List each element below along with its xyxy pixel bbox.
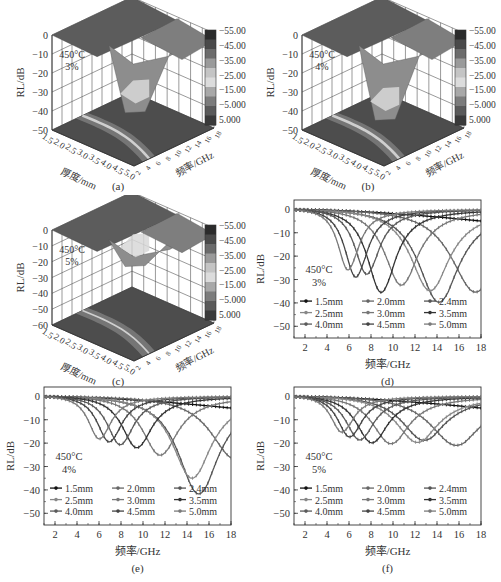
z-tick-label: −10 [32, 241, 48, 252]
x-tick-label: 2 [302, 342, 307, 353]
z-tick-label: −40 [282, 106, 298, 117]
z-tick-label: −50 [32, 304, 48, 315]
y-tick-label: −10 [274, 228, 290, 239]
y-tick-label: −30 [24, 462, 40, 473]
surface-3d-box: 0−10−20−30−40−50−60RL/dB450°C5%1.52.02.5… [14, 195, 224, 387]
legend-item: 2.4mm [439, 296, 467, 307]
x-tick-label: 18 [226, 529, 237, 540]
y-tick-label: 0 [285, 391, 290, 402]
panel-f-line: 0−10−20−30−40−5024681012141618频率/GHzRL/d… [250, 382, 501, 582]
x-tick-label: 8 [118, 529, 123, 540]
y-axis-label: RL/dB [4, 441, 16, 471]
surface-3d-box: 0−10−20−30−40−50RL/dB450°C3%1.52.02.53.0… [14, 0, 224, 192]
colorbar: −55.00−45.00−35.00−25.00−15.00−5.0005.00… [205, 221, 246, 321]
panel-caption: (b) [362, 180, 375, 193]
z-tick-label: 0 [293, 30, 298, 41]
annotation-content: 3% [312, 277, 326, 288]
legend-item: 4.0mm [315, 506, 343, 517]
colorbar-label: −35.00 [219, 56, 246, 66]
x-axis-label: 频率/GHz [365, 544, 411, 557]
legend-item: 2.4mm [189, 483, 217, 494]
legend: 1.5mm2.0mm2.4mm2.5mm3.0mm3.5mm4.0mm4.5mm… [300, 483, 467, 517]
colorbar-label: −55.00 [469, 26, 496, 36]
colorbar-label: −15.00 [219, 85, 246, 95]
y-tick-label: −30 [274, 462, 290, 473]
x-tick-label: 16 [454, 342, 465, 353]
legend-item: 3.5mm [439, 495, 467, 506]
colorbar-label: 5.000 [469, 115, 491, 125]
z-axis-label: RL/dB [264, 68, 276, 98]
legend-item: 3.5mm [439, 308, 467, 319]
x-tick-label: 10 [388, 529, 399, 540]
x-tick-label: 12 [160, 529, 171, 540]
y-tick-label: 8 [164, 350, 173, 357]
z-axis-label: RL/dB [14, 68, 26, 98]
y-tick-label: 18 [463, 130, 474, 140]
y-axis-label: RL/dB [254, 254, 266, 284]
z-tick-label: −40 [32, 106, 48, 117]
legend-item: 3.0mm [127, 495, 155, 506]
legend-item: 4.0mm [65, 506, 93, 517]
y-tick-label: −50 [24, 508, 40, 519]
z-tick-label: −30 [282, 87, 298, 98]
colorbar-label: −5.000 [219, 100, 246, 110]
z-tick-label: 0 [43, 225, 48, 236]
y-tick-label: −20 [24, 438, 40, 449]
x-tick-label: 2 [52, 529, 57, 540]
legend-item: 4.0mm [315, 319, 343, 330]
y-tick-label: 6 [154, 355, 163, 362]
y-tick-label: 18 [213, 325, 224, 335]
legend-item: 4.5mm [127, 506, 155, 517]
x-tick-label: 4 [74, 529, 80, 540]
legend-item: 5.0mm [439, 506, 467, 517]
colorbar-label: −55.00 [219, 26, 246, 36]
y-tick-label: −20 [274, 438, 290, 449]
y-tick-label: −10 [274, 415, 290, 426]
colorbar-label: −25.00 [219, 266, 246, 276]
legend-item: 3.5mm [189, 495, 217, 506]
annotation-content: 5% [65, 256, 78, 267]
z-tick-label: −30 [32, 87, 48, 98]
annotation-temperature: 450°C [306, 451, 333, 462]
legend-item: 5.0mm [189, 506, 217, 517]
colorbar-label: −45.00 [219, 236, 246, 246]
colorbar-label: −5.000 [219, 295, 246, 305]
surface-plot-a: 0−10−20−30−40−50RL/dB450°C3%1.52.02.53.0… [0, 0, 250, 195]
legend-item: 2.4mm [439, 483, 467, 494]
y-tick-label: 8 [414, 155, 423, 162]
panel-caption: (a) [112, 180, 125, 193]
colorbar-label: 5.000 [219, 115, 241, 125]
x-tick-label: 4 [324, 529, 330, 540]
x-tick-label: 6 [96, 529, 101, 540]
panel-b-surface: 0−10−20−30−40−50RL/dB450°C4%1.52.02.53.0… [250, 0, 501, 195]
y-tick-label: 6 [154, 160, 163, 167]
x-tick-label: 8 [368, 529, 373, 540]
colorbar: −55.00−45.00−35.00−25.00−15.00−5.0005.00… [205, 26, 246, 126]
legend-item: 2.5mm [315, 308, 343, 319]
legend-item: 1.5mm [315, 483, 343, 494]
surface-plot-b: 0−10−20−30−40−50RL/dB450°C4%1.52.02.53.0… [250, 0, 501, 195]
line-plot-area: 0−10−20−30−40−5024681012141618频率/GHzRL/d… [254, 200, 486, 370]
annotation-content: 4% [315, 61, 328, 72]
legend-item: 2.5mm [315, 495, 343, 506]
annotation-temperature: 450°C [309, 49, 335, 60]
z-tick-label: −40 [32, 288, 48, 299]
colorbar-label: 5.000 [219, 310, 241, 320]
annotation-content: 5% [312, 464, 326, 475]
panel-e-line: 0−10−20−30−40−5024681012141618频率/GHzRL/d… [0, 382, 250, 582]
line-plot-area: 0−10−20−30−40−5024681012141618频率/GHzRL/d… [4, 387, 236, 557]
x-tick-label: 2 [302, 529, 307, 540]
surface-plot-c: 0−10−20−30−40−50−60RL/dB450°C5%1.52.02.5… [0, 195, 250, 390]
x-tick-label: 18 [476, 529, 487, 540]
panel-c-surface: 0−10−20−30−40−50−60RL/dB450°C5%1.52.02.5… [0, 195, 250, 390]
legend-item: 1.5mm [315, 296, 343, 307]
line-plot-f: 0−10−20−30−40−5024681012141618频率/GHzRL/d… [250, 382, 501, 582]
z-tick-label: −10 [32, 49, 48, 60]
colorbar-label: −45.00 [219, 41, 246, 51]
y-tick-label: 4 [144, 164, 153, 171]
colorbar-label: −5.000 [469, 100, 496, 110]
x-tick-label: 18 [476, 342, 487, 353]
colorbar: −55.00−45.00−35.00−25.00−15.00−5.0005.00… [455, 26, 496, 126]
colorbar-label: −35.00 [219, 251, 246, 261]
x-tick-label: 12 [410, 342, 421, 353]
